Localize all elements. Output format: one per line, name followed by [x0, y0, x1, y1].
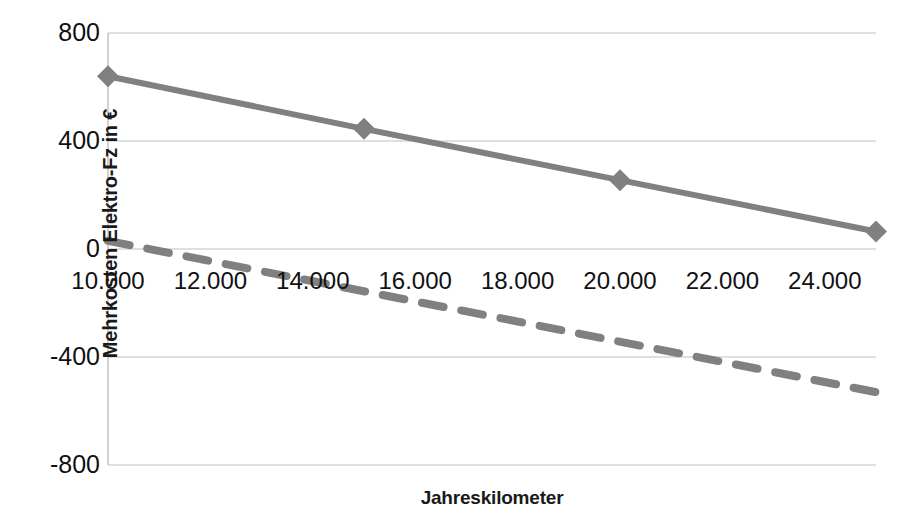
x-axis-tick-labels: 10.00012.00014.00016.00018.00020.00022.0…: [0, 0, 899, 521]
line-chart: 8004000-400-800 10.00012.00014.00016.000…: [0, 0, 899, 521]
x-axis-title: Jahreskilometer: [108, 487, 876, 509]
y-axis-title: Mehrkosten Elektro-Fz in €: [99, 19, 122, 449]
x-tick-label: 24.000: [755, 268, 895, 294]
